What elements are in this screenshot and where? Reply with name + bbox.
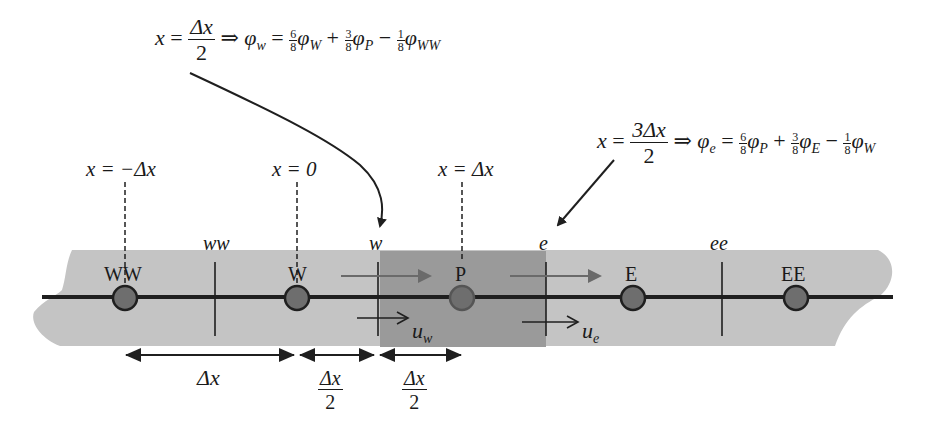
phi-sub: W — [309, 38, 321, 53]
face-label-w: w — [369, 233, 382, 253]
phi-symbol: φ — [297, 25, 309, 50]
coef: 68 — [739, 131, 747, 156]
phi-sub: e — [709, 141, 715, 156]
node-ww — [113, 286, 137, 310]
frac-num: Δx — [402, 368, 427, 390]
spacing-label-half2: Δx2 — [402, 368, 427, 412]
eq-var: x — [155, 25, 165, 50]
pointer-arrow-east — [558, 160, 614, 225]
phi-symbol: φ — [353, 25, 365, 50]
coef-den: 8 — [345, 41, 353, 53]
op: − — [826, 128, 838, 153]
phi-sub: WW — [417, 38, 440, 53]
implies-symbol: ⇒ — [220, 25, 238, 50]
equation-east: x = 3Δx 2 ⇒ φe = 68φP + 38φE − 18φW — [597, 119, 875, 167]
coef-den: 8 — [397, 41, 405, 53]
diagram-graphics — [0, 0, 935, 430]
frac-den: 2 — [318, 390, 343, 412]
position-label-neg-dx: x = −Δx — [86, 159, 156, 180]
node-label-p: P — [455, 264, 466, 284]
op: + — [773, 128, 785, 153]
coef-den: 8 — [739, 144, 747, 156]
node-label-e: E — [625, 264, 637, 284]
phi-symbol: φ — [851, 128, 863, 153]
op: = — [721, 128, 733, 153]
frac-num: 3Δx — [630, 119, 668, 143]
position-label-zero: x = 0 — [272, 159, 317, 180]
node-p — [450, 286, 474, 310]
velocity-label-uw: uw — [412, 320, 432, 346]
node-ee — [784, 286, 808, 310]
pointer-arrow-west — [190, 73, 382, 226]
face-label-ee: ee — [710, 233, 728, 253]
node-w — [285, 286, 309, 310]
eq-fraction: Δx 2 — [188, 16, 215, 64]
frac-den: 2 — [188, 40, 215, 64]
op: + — [327, 25, 339, 50]
face-label-e: e — [539, 233, 548, 253]
op: = — [271, 25, 283, 50]
implies-symbol: ⇒ — [673, 128, 691, 153]
phi-sub: w — [256, 38, 265, 53]
position-label-dx: x = Δx — [438, 159, 494, 180]
node-e — [621, 286, 645, 310]
coef: 18 — [397, 28, 405, 53]
node-label-ww: WW — [104, 264, 142, 284]
eq-fraction: 3Δx 2 — [630, 119, 668, 167]
face-label-ww: ww — [203, 233, 230, 253]
equation-west: x = Δx 2 ⇒ φw = 68φW + 38φP − 18φWW — [155, 16, 440, 64]
phi-symbol: φ — [747, 128, 759, 153]
coef-num: 1 — [397, 28, 405, 41]
frac-num: Δx — [318, 368, 343, 390]
frac-num: Δx — [188, 16, 215, 40]
eq-sign: = — [612, 128, 624, 153]
phi-sub: W — [864, 141, 876, 156]
phi-sub: E — [811, 141, 820, 156]
phi-symbol: φ — [697, 128, 709, 153]
spacing-label-dx: Δx — [197, 367, 220, 389]
velocity-symbol: u — [412, 318, 423, 343]
coef-num: 3 — [345, 28, 353, 41]
phi-symbol: φ — [799, 128, 811, 153]
phi-sub: P — [365, 38, 374, 53]
phi-sub: P — [759, 141, 768, 156]
spacing-label-half1: Δx2 — [318, 368, 343, 412]
coef-num: 6 — [739, 131, 747, 144]
node-label-w: W — [288, 264, 307, 284]
velocity-symbol: u — [582, 318, 593, 343]
velocity-sub: e — [593, 331, 599, 346]
eq-sign: = — [170, 25, 182, 50]
finite-volume-diagram: x = Δx 2 ⇒ φw = 68φW + 38φP − 18φWW x = … — [0, 0, 935, 430]
coef: 38 — [345, 28, 353, 53]
phi-symbol: φ — [244, 25, 256, 50]
op: − — [379, 25, 391, 50]
frac-den: 2 — [630, 143, 668, 167]
velocity-label-ue: ue — [582, 320, 599, 346]
node-label-ee: EE — [781, 264, 805, 284]
eq-var: x — [597, 128, 607, 153]
velocity-sub: w — [423, 331, 432, 346]
phi-symbol: φ — [405, 25, 417, 50]
frac-den: 2 — [402, 390, 427, 412]
